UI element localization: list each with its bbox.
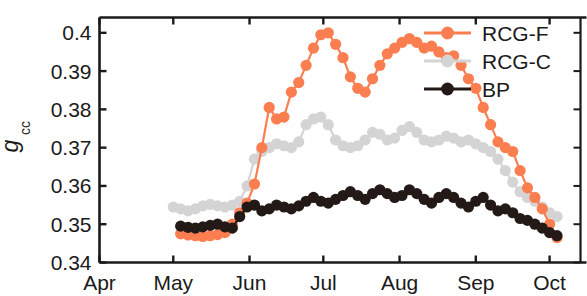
- y-tick-label: 0.39: [51, 60, 92, 83]
- x-tick-label: Apr: [83, 271, 116, 294]
- y-tick-label: 0.35: [51, 213, 92, 236]
- data-point: [485, 119, 496, 130]
- data-point: [463, 73, 474, 84]
- legend-label-bp: BP: [482, 78, 510, 101]
- data-point: [478, 102, 489, 113]
- x-tick-label: Jun: [233, 271, 267, 294]
- data-point: [249, 178, 260, 189]
- legend-label-rcg-c: RCG-C: [482, 50, 551, 73]
- data-point: [360, 87, 371, 98]
- data-point: [522, 182, 533, 193]
- data-point: [227, 222, 238, 233]
- y-tick-label: 0.37: [51, 136, 92, 159]
- legend-marker-bp: [441, 83, 454, 96]
- data-point: [507, 146, 518, 157]
- data-point: [345, 71, 356, 82]
- y-tick-label: 0.36: [51, 174, 92, 197]
- data-point: [514, 165, 525, 176]
- data-point: [293, 136, 304, 147]
- data-point: [256, 142, 267, 153]
- x-tick-label: Aug: [381, 271, 418, 294]
- data-point: [234, 211, 245, 222]
- chart-canvas: 0.40.390.380.370.360.350.34 AprMayJunJul…: [0, 0, 587, 296]
- x-axis-tick-labels: AprMayJunJulAugSepOct: [83, 271, 566, 294]
- data-point: [507, 177, 518, 188]
- data-point: [323, 119, 334, 130]
- data-point: [323, 27, 334, 38]
- x-tick-label: Jul: [310, 271, 337, 294]
- legend-label-rcg-f: RCG-F: [482, 22, 549, 45]
- x-tick-label: Oct: [533, 271, 566, 294]
- data-point: [337, 52, 348, 63]
- data-point: [278, 111, 289, 122]
- data-point: [308, 43, 319, 54]
- legend-marker-rcg-c: [441, 55, 454, 68]
- data-point: [551, 230, 562, 241]
- data-point: [330, 39, 341, 50]
- legend-marker-rcg-f: [441, 27, 454, 40]
- y-tick-label: 0.4: [62, 21, 92, 44]
- data-point: [529, 192, 540, 203]
- x-tick-label: May: [153, 271, 193, 294]
- data-point: [470, 83, 481, 94]
- y-axis-title-main: g: [0, 139, 23, 152]
- data-point: [537, 203, 548, 214]
- data-point: [492, 154, 503, 165]
- chart-figure: 0.40.390.380.370.360.350.34 AprMayJunJul…: [0, 0, 587, 296]
- y-tick-label: 0.38: [51, 98, 92, 121]
- data-point: [293, 77, 304, 88]
- data-point: [367, 73, 378, 84]
- data-point: [374, 60, 385, 71]
- x-tick-label: Sep: [457, 271, 494, 294]
- data-point: [264, 102, 275, 113]
- data-point: [286, 87, 297, 98]
- data-point: [500, 165, 511, 176]
- y-axis-title-subscript: cc: [17, 121, 33, 135]
- data-point: [301, 60, 312, 71]
